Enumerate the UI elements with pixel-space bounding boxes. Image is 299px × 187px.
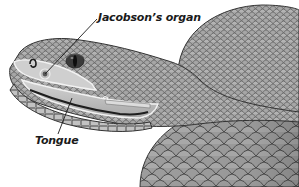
eye (66, 54, 84, 68)
tongue-label: Tongue (35, 134, 78, 147)
snake-illustration (0, 0, 299, 187)
snake-diagram (0, 0, 299, 187)
jacobsons-organ-label: Jacobson’s organ (98, 11, 201, 24)
